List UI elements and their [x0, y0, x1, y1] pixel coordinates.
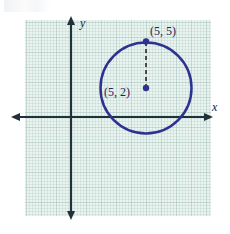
top-point-label: (5, 5) [150, 25, 176, 37]
y-axis-label: y [80, 17, 85, 29]
center-point-marker [143, 85, 149, 91]
top-point-marker [143, 38, 149, 44]
y-axis-arrow-down [67, 211, 75, 220]
figure-canvas: y x (5, 5) (5, 2) [0, 0, 230, 234]
figure-vector-layer [0, 0, 230, 234]
x-axis-label: x [212, 101, 217, 113]
y-axis-arrow-up [67, 16, 75, 25]
center-point-label: (5, 2) [104, 86, 130, 98]
x-axis-arrow-right [204, 113, 213, 121]
x-axis-arrow-left [11, 113, 20, 121]
